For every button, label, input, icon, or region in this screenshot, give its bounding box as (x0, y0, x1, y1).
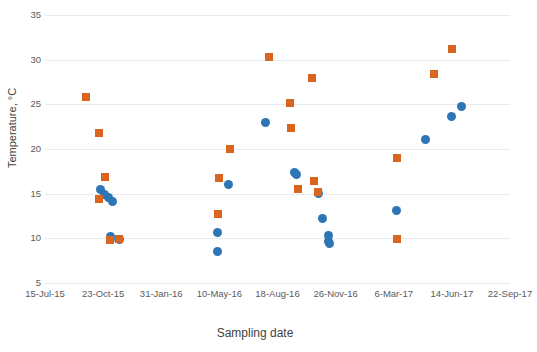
data-point-series_2 (310, 177, 318, 185)
data-point-series_1 (261, 118, 270, 127)
data-point-series_2 (214, 210, 222, 218)
data-point-series_2 (448, 45, 456, 53)
x-axis-title: Sampling date (0, 326, 510, 340)
data-point-series_1 (106, 232, 115, 241)
data-point-series_2 (308, 74, 316, 82)
data-point-series_1 (108, 197, 117, 206)
gridline-y (45, 238, 510, 239)
data-point-series_2 (215, 174, 223, 182)
data-point-series_1 (96, 185, 105, 194)
gridline-y (45, 15, 510, 16)
y-tick-label: 30 (11, 55, 41, 65)
gridline-y (45, 104, 510, 105)
data-point-series_1 (318, 214, 327, 223)
y-tick-label: 5 (11, 278, 41, 288)
y-tick-label: 10 (11, 233, 41, 243)
data-point-series_1 (392, 206, 401, 215)
y-tick-label: 15 (11, 189, 41, 199)
data-point-series_1 (325, 239, 334, 248)
x-axis-ticks: 15-Jul-1523-Oct-1531-Jan-1610-May-1618-A… (0, 288, 510, 304)
data-point-series_1 (213, 228, 222, 237)
gridline-y (45, 149, 510, 150)
data-point-series_1 (457, 102, 466, 111)
gridline-y (45, 194, 510, 195)
data-point-series_1 (292, 170, 301, 179)
y-tick-label: 25 (11, 99, 41, 109)
plot-area (45, 15, 510, 283)
data-point-series_1 (421, 135, 430, 144)
x-tick-label: 22-Sep-17 (475, 288, 537, 300)
data-point-series_1 (447, 112, 456, 121)
gridline-y (45, 60, 510, 61)
data-point-series_2 (95, 195, 103, 203)
y-tick-label: 35 (11, 10, 41, 20)
data-point-series_2 (82, 93, 90, 101)
data-point-series_2 (106, 236, 114, 244)
data-point-series_2 (101, 173, 109, 181)
x-axis-line (45, 283, 510, 284)
data-point-series_1 (290, 168, 299, 177)
data-point-series_1 (224, 180, 233, 189)
data-point-series_2 (430, 70, 438, 78)
data-point-series_2 (393, 154, 401, 162)
data-point-series_1 (213, 247, 222, 256)
data-point-series_2 (287, 124, 295, 132)
data-point-series_2 (95, 129, 103, 137)
data-point-series_2 (314, 188, 322, 196)
data-point-series_2 (294, 185, 302, 193)
y-tick-label: 20 (11, 144, 41, 154)
